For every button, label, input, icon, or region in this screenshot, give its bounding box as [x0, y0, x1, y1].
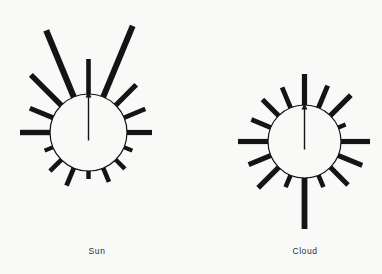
wind-rose-figure: [0, 0, 382, 274]
panel-caption-sun: Sun: [89, 246, 106, 256]
panel-caption-cloud: Cloud: [292, 246, 317, 256]
